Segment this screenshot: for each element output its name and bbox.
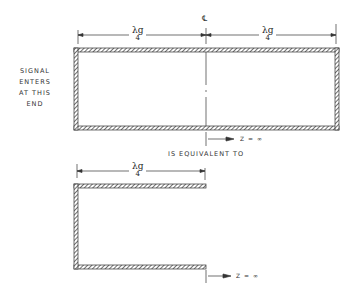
waveguide-diagram (0, 0, 359, 293)
top-waveguide (74, 48, 339, 130)
fraction-denominator: 4 (262, 34, 273, 42)
fraction-denominator: 4 (132, 34, 143, 42)
fraction-numerator: λg (132, 162, 143, 170)
equivalence-label: IS EQUIVALENT TO (168, 150, 288, 158)
top-dimension-lines (78, 24, 336, 44)
fraction-denominator: 4 (132, 170, 143, 178)
fraction-numerator: λg (262, 26, 273, 34)
top-impedance-arrow (208, 137, 234, 141)
dimension-top-left: λg 4 (129, 26, 146, 42)
dimension-top-right: λg 4 (259, 26, 276, 42)
signal-label-line-4: END (14, 99, 56, 110)
bottom-impedance-arrow (206, 270, 231, 283)
fraction-numerator: λg (132, 26, 143, 34)
centerline-symbol: ℄ (202, 14, 208, 23)
impedance-bottom-label: Z = ∞ (236, 272, 259, 279)
signal-label-line-1: SIGNAL (14, 66, 56, 77)
impedance-top-label: Z = ∞ (240, 135, 263, 142)
bottom-waveguide (74, 184, 206, 269)
signal-label-line-2: ENTERS (14, 77, 56, 88)
signal-enters-label: SIGNAL ENTERS AT THIS END (14, 66, 56, 110)
dimension-bottom: λg 4 (129, 162, 146, 178)
signal-label-line-3: AT THIS (14, 88, 56, 99)
